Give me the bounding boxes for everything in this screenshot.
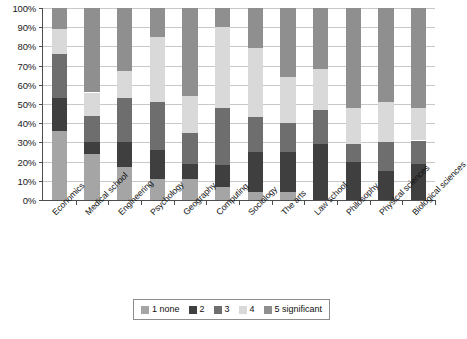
- bar-segment: [280, 152, 295, 192]
- x-tick-mark: [435, 200, 436, 205]
- bar-segment: [346, 144, 361, 161]
- x-tick-mark: [370, 200, 371, 205]
- bar-segment: [313, 144, 328, 200]
- bar-segment: [150, 150, 165, 179]
- bar-segment: [280, 8, 295, 77]
- y-tick-mark: [39, 200, 43, 201]
- x-tick-mark: [304, 200, 305, 205]
- bar-segment: [215, 165, 230, 186]
- bar-segment: [248, 48, 263, 117]
- bar-segment: [182, 133, 197, 164]
- bar-segment: [117, 71, 132, 98]
- bar-segment: [280, 77, 295, 123]
- bar-segment: [215, 108, 230, 166]
- bar-geography: [182, 8, 197, 200]
- bar-segment: [52, 54, 67, 98]
- legend-label: 3: [225, 305, 230, 314]
- legend-label: 1 none: [152, 305, 180, 314]
- y-tick-label: 50%: [18, 100, 36, 109]
- y-tick-label: 100%: [13, 4, 37, 13]
- legend-label: 4: [250, 305, 255, 314]
- bar-segment: [150, 37, 165, 102]
- bar-segment: [248, 117, 263, 152]
- y-tick-label: 80%: [18, 42, 36, 51]
- bar-segment: [52, 8, 67, 29]
- x-tick-mark: [141, 200, 142, 205]
- bar-segment: [313, 8, 328, 69]
- plot-area: [42, 8, 435, 201]
- legend-swatch-icon: [214, 306, 222, 314]
- legend-label: 2: [200, 305, 205, 314]
- x-tick-mark: [239, 200, 240, 205]
- bar-segment: [117, 98, 132, 142]
- bar-segment: [182, 96, 197, 132]
- legend-item[interactable]: 2: [189, 305, 205, 314]
- bar-law-school: [313, 8, 328, 200]
- bar-segment: [52, 98, 67, 131]
- bar-computing: [215, 8, 230, 200]
- bar-segment: [411, 108, 426, 141]
- bar-segment: [117, 142, 132, 167]
- x-axis-labels: EconomicsMedical schoolEngineeringPsycho…: [42, 210, 434, 295]
- bar-segment: [52, 131, 67, 200]
- x-tick-mark: [272, 200, 273, 205]
- bar-segment: [52, 29, 67, 54]
- y-tick-label: 20%: [18, 157, 36, 166]
- plot-area-wrapper: 0%10%20%30%40%50%60%70%80%90%100%: [0, 8, 440, 208]
- bar-physical-sciences: [378, 8, 393, 200]
- legend-item[interactable]: 4: [239, 305, 255, 314]
- bar-segment: [84, 116, 99, 143]
- bar-segment: [346, 8, 361, 108]
- bar-segment: [346, 108, 361, 144]
- bar-psychology: [150, 8, 165, 200]
- bar-segment: [84, 93, 99, 116]
- bar-segment: [313, 69, 328, 109]
- bar-segment: [378, 102, 393, 142]
- x-tick-mark: [206, 200, 207, 205]
- bar-segment: [150, 8, 165, 37]
- bar-segment: [248, 152, 263, 192]
- legend-item[interactable]: 5 significant: [264, 305, 323, 314]
- bar-segment: [411, 141, 426, 164]
- bar-segment: [248, 8, 263, 48]
- y-tick-label: 40%: [18, 119, 36, 128]
- y-tick-label: 30%: [18, 138, 36, 147]
- bar-segment: [182, 164, 197, 179]
- bar-segment: [378, 142, 393, 171]
- legend-label: 5 significant: [275, 305, 323, 314]
- y-tick-label: 10%: [18, 176, 36, 185]
- bar-sociology: [248, 8, 263, 200]
- bar-segment: [280, 123, 295, 152]
- bar-segment: [378, 8, 393, 102]
- y-tick-label: 90%: [18, 23, 36, 32]
- x-tick-mark: [174, 200, 175, 205]
- y-axis: 0%10%20%30%40%50%60%70%80%90%100%: [0, 8, 40, 200]
- bars-layer: [43, 8, 435, 200]
- bar-segment: [313, 110, 328, 145]
- bar-philosophy: [346, 8, 361, 200]
- bar-economics: [52, 8, 67, 200]
- bar-segment: [84, 8, 99, 92]
- legend-item[interactable]: 1 none: [141, 305, 180, 314]
- x-tick-mark: [76, 200, 77, 205]
- bar-segment: [84, 142, 99, 154]
- legend-swatch-icon: [239, 306, 247, 314]
- bar-segment: [411, 8, 426, 108]
- legend-item[interactable]: 3: [214, 305, 230, 314]
- bar-the-arts: [280, 8, 295, 200]
- x-tick-mark: [337, 200, 338, 205]
- x-tick-mark: [108, 200, 109, 205]
- bar-segment: [182, 8, 197, 96]
- bar-segment: [117, 8, 132, 71]
- legend-swatch-icon: [141, 306, 149, 314]
- bar-engineering: [117, 8, 132, 200]
- y-tick-label: 0%: [23, 196, 36, 205]
- y-tick-label: 70%: [18, 61, 36, 70]
- bar-segment: [150, 102, 165, 150]
- bar-segment: [215, 27, 230, 108]
- bar-segment: [215, 8, 230, 27]
- bar-medical-school: [84, 8, 99, 200]
- legend-swatch-icon: [264, 306, 272, 314]
- bar-segment: [84, 154, 99, 200]
